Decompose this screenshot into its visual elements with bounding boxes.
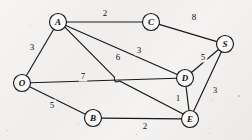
edge-weight-a-e: 6 bbox=[116, 52, 121, 62]
node-label-a: A bbox=[54, 17, 61, 27]
node-label-d: D bbox=[181, 73, 189, 83]
graph-edge-a-d bbox=[66, 25, 177, 74]
node-label-c: C bbox=[148, 17, 155, 27]
graph-svg: ACSODBE 28336755132 bbox=[0, 0, 252, 140]
edge-weight-d-s: 5 bbox=[201, 52, 206, 62]
edge-weight-b-e: 2 bbox=[143, 121, 148, 131]
edge-weight-e-s: 3 bbox=[213, 85, 218, 95]
nodes-group: ACSODBE bbox=[14, 14, 234, 128]
graph-node-b: B bbox=[85, 110, 102, 127]
graph-edge-d-e bbox=[186, 86, 189, 110]
edge-weight-o-b: 5 bbox=[50, 100, 55, 110]
graph-node-c: C bbox=[143, 14, 160, 31]
graph-edge-e-s bbox=[194, 52, 222, 112]
graph-edge-o-b bbox=[30, 87, 86, 114]
edge-weight-c-s: 8 bbox=[192, 12, 197, 22]
edge-weight-a-o: 3 bbox=[30, 42, 35, 52]
graph-edge-o-d bbox=[30, 78, 176, 82]
edge-weight-a-d: 3 bbox=[137, 45, 142, 55]
edge-weight-d-e: 1 bbox=[176, 93, 181, 103]
graph-node-e: E bbox=[182, 111, 199, 128]
graph-node-a: A bbox=[50, 14, 67, 31]
graph-node-d: D bbox=[177, 70, 194, 87]
node-label-e: E bbox=[186, 114, 193, 124]
node-label-o: O bbox=[19, 78, 26, 88]
graph-edge-c-s bbox=[159, 24, 217, 41]
graph-node-o: O bbox=[14, 75, 31, 92]
edge-weight-a-c: 2 bbox=[103, 8, 108, 18]
node-label-s: S bbox=[222, 39, 227, 49]
graph-diagram-canvas: ACSODBE 28336755132 bbox=[0, 0, 252, 140]
edge-weight-o-d: 7 bbox=[81, 71, 86, 81]
graph-edge-b-e bbox=[101, 118, 181, 119]
node-label-b: B bbox=[89, 113, 96, 123]
graph-node-s: S bbox=[217, 36, 234, 53]
